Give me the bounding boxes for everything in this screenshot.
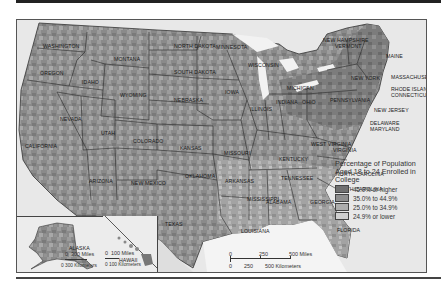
legend-item: 24.9% or lower xyxy=(335,212,427,220)
state-label: TENNESSEE xyxy=(281,176,313,182)
state-label: GEORGIA xyxy=(310,200,335,206)
state-label: WISCONSIN xyxy=(248,63,279,69)
state-callout-label: VERMONT xyxy=(335,44,362,50)
state-label: OREGON xyxy=(40,71,64,77)
state-label: COLORADO xyxy=(133,139,164,145)
alaska-scale-miles: 0 300 Miles xyxy=(65,251,94,257)
map-frame: 0 300 Miles 0 300 Kilometers 0 100 Miles… xyxy=(16,19,427,273)
alaska-inset: 0 300 Miles 0 300 Kilometers xyxy=(17,216,104,273)
state-label: ARKANSAS xyxy=(225,179,254,185)
legend-item: 25.0% to 34.9% xyxy=(335,203,427,211)
hawaii-scale-miles: 0 100 Miles xyxy=(105,250,134,256)
scale-km-0: 0 xyxy=(229,263,232,269)
state-label: MONTANA xyxy=(114,57,140,63)
state-callout-label: MASSACHUSETTS xyxy=(391,75,427,81)
legend-label: 35.0% to 44.9% xyxy=(353,195,397,202)
state-label: OKLAHOMA xyxy=(185,174,215,180)
legend-label: 45.0% or higher xyxy=(353,186,397,193)
legend-swatch xyxy=(335,185,349,193)
hawaii-scale-bar xyxy=(105,258,119,259)
state-label: NEBRASKA xyxy=(174,98,203,104)
hawaii-inset: 0 100 Miles 0 100 Kilometers xyxy=(103,216,158,272)
state-label: UTAH xyxy=(101,131,115,137)
state-label: IOWA xyxy=(225,90,239,96)
legend-label: 24.9% or lower xyxy=(353,213,395,220)
state-label: MINNESOTA xyxy=(216,45,247,51)
scale-km-250: 250 xyxy=(244,263,253,269)
state-label: CALIFORNIA xyxy=(25,144,57,150)
state-label: NORTH DAKOTA xyxy=(174,44,216,50)
state-label: FLORIDA xyxy=(337,228,360,234)
state-label: MISSOURI xyxy=(224,151,250,157)
state-label: IDAHO xyxy=(82,80,99,86)
legend-title: Percentage of Population Aged 18 to 24 E… xyxy=(335,160,427,184)
bottom-rule xyxy=(16,277,441,279)
state-label: NEW MEXICO xyxy=(131,181,166,187)
state-callout-label: NEW JERSEY xyxy=(374,108,409,114)
state-callout-label: CONNECTICUT xyxy=(391,93,427,99)
alaska-scale-bar xyxy=(65,259,87,260)
legend-swatch xyxy=(335,203,349,211)
state-label: WASHINGTON xyxy=(43,44,79,50)
scale-label: 0 xyxy=(65,251,68,257)
state-label: ARIZONA xyxy=(89,179,113,185)
scale-km-500: 500 Kilometers xyxy=(265,263,301,269)
state-label: HAWAII xyxy=(119,258,138,264)
scale-miles-500: 500 Miles xyxy=(289,251,312,257)
legend-label: 25.0% to 34.9% xyxy=(353,204,397,211)
state-label: INDIANA xyxy=(276,100,298,106)
state-label: PENNSYLVANIA xyxy=(330,98,370,104)
alaska-scale-km: 0 300 Kilometers xyxy=(61,263,97,268)
state-label: ILLINOIS xyxy=(250,107,272,113)
top-rule xyxy=(16,0,441,3)
state-label: MAINE xyxy=(386,54,403,60)
legend-swatch xyxy=(335,212,349,220)
state-label: NEW YORK xyxy=(351,76,380,82)
legend-item: 45.0% or higher xyxy=(335,185,427,193)
state-callout-label: MARYLAND xyxy=(370,127,400,133)
state-label: OHIO xyxy=(302,100,316,106)
legend-item: 35.0% to 44.9% xyxy=(335,194,427,202)
state-label: ALABAMA xyxy=(266,200,291,206)
state-label: VIRGINIA xyxy=(333,148,357,154)
state-label: NEVADA xyxy=(60,117,82,123)
state-label: WYOMING xyxy=(120,93,147,99)
state-label: KANSAS xyxy=(180,146,202,152)
state-label: MICHIGAN xyxy=(287,86,314,92)
state-label: KENTUCKY xyxy=(279,157,308,163)
state-label: TEXAS xyxy=(165,222,183,228)
main-scale: 0 250 500 Miles 0 250 500 Kilometers xyxy=(229,253,349,273)
scale-label: 100 Miles xyxy=(111,250,134,256)
scale-label: 300 Miles xyxy=(71,251,94,257)
state-label: ALASKA xyxy=(69,246,90,252)
state-label: SOUTH DAKOTA xyxy=(174,70,216,76)
legend-swatch xyxy=(335,194,349,202)
scale-label: 0 xyxy=(105,250,108,256)
state-label: LOUISIANA xyxy=(241,229,270,235)
legend: Percentage of Population Aged 18 to 24 E… xyxy=(335,160,427,220)
